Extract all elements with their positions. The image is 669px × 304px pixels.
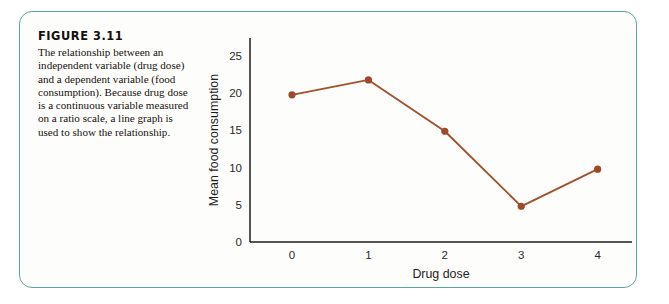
figure-card: FIGURE 3.11 The relationship between an … (19, 11, 637, 288)
x-axis-title: Drug dose (412, 267, 469, 281)
y-tick-label: 15 (229, 124, 242, 136)
data-point-marker (365, 76, 372, 83)
data-point-marker (518, 203, 525, 210)
caption-block: FIGURE 3.11 The relationship between an … (38, 29, 190, 139)
data-point-marker (288, 91, 295, 98)
figure-label: FIGURE 3.11 (38, 29, 190, 43)
y-tick-label: 5 (236, 199, 242, 211)
x-tick-label: 0 (289, 249, 295, 261)
data-line-series (292, 80, 598, 206)
y-tick-label: 10 (229, 162, 242, 174)
chart-svg: 0510152025 01234 Mean food consumption D… (192, 12, 638, 289)
x-tick-label: 1 (365, 249, 371, 261)
y-tick-label: 25 (229, 50, 242, 62)
data-point-marker (441, 128, 448, 135)
figure-caption: The relationship between an independent … (38, 46, 190, 139)
x-tick-label: 2 (442, 249, 448, 261)
y-tick-label: 0 (236, 236, 242, 248)
y-axis-title: Mean food consumption (207, 74, 221, 206)
line-chart: 0510152025 01234 Mean food consumption D… (192, 12, 638, 289)
data-point-marker (594, 166, 601, 173)
x-tick-label: 4 (594, 249, 601, 261)
y-tick-labels: 0510152025 (229, 50, 242, 248)
x-tick-labels: 01234 (289, 249, 602, 261)
y-tick-label: 20 (229, 87, 242, 99)
x-tick-label: 3 (518, 249, 524, 261)
